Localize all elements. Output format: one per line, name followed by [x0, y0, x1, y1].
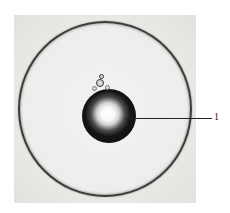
small-bubble: [92, 86, 97, 91]
small-bubble: [105, 85, 110, 90]
outer-droplet: [18, 21, 192, 197]
annotation-label: 1: [214, 111, 219, 122]
small-bubble: [99, 74, 104, 79]
micrograph: [14, 15, 196, 203]
inner-droplet: [82, 89, 136, 143]
annotation-leader-line: [125, 118, 212, 119]
small-bubble: [96, 79, 104, 87]
